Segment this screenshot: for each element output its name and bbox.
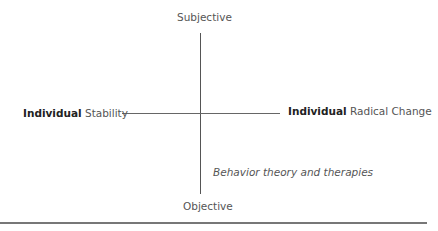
axis-label-bottom: Objective [183,200,233,212]
axis-label-left: Individual Stability [23,107,128,119]
axis-label-right: Individual Radical Change [288,105,432,117]
axis-label-left-bold: Individual [23,107,82,119]
axis-label-left-rest: Stability [85,107,128,119]
axis-label-top: Subjective [177,11,232,23]
axis-label-right-bold: Individual [288,105,347,117]
horizontal-axis [122,113,280,114]
bottom-rule [0,222,427,224]
quadrant-item: Behavior theory and therapies [213,166,373,178]
axis-label-right-rest: Radical Change [350,105,432,117]
